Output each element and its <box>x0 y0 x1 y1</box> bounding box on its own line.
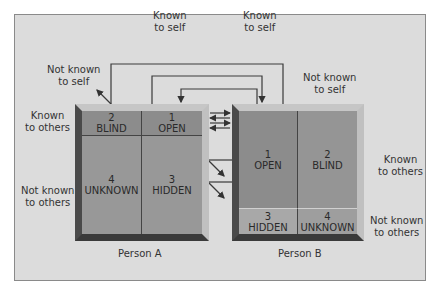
person-a-hidden-cell: 3 HIDDEN <box>142 136 202 234</box>
label-known-to-others-left: Known to others <box>25 110 70 134</box>
inner-connector <box>181 89 257 104</box>
person-a-window: 2 BLIND 1 OPEN 4 UNKNOWN 3 HIDDEN <box>75 104 209 241</box>
person-b-open-cell: 1 OPEN <box>239 111 298 208</box>
cell-label: BLIND <box>96 123 127 134</box>
label-not-known-to-self-right: Not known to self <box>303 72 356 96</box>
cell-number: 2 <box>324 149 330 160</box>
person-b-caption: Person B <box>278 248 322 260</box>
cell-number: 4 <box>108 174 114 185</box>
cell-label: OPEN <box>158 123 186 134</box>
connector-lines <box>0 0 437 292</box>
label-not-known-to-others-left: Not known to others <box>21 185 74 209</box>
person-a-blind-cell: 2 BLIND <box>82 111 142 136</box>
label-not-known-to-others-right: Not known to others <box>370 215 423 239</box>
cell-label: BLIND <box>312 160 343 171</box>
cell-number: 1 <box>169 112 175 123</box>
label-known-to-self-left: Known to self <box>153 10 187 34</box>
label-known-to-others-right: Known to others <box>378 154 423 178</box>
person-b-blind-cell: 2 BLIND <box>298 111 357 208</box>
label-known-to-self-right: Known to self <box>243 10 277 34</box>
person-a-unknown-cell: 4 UNKNOWN <box>82 136 142 234</box>
person-b-window: 1 OPEN 2 BLIND 3 HIDDEN 4 UNKNOWN <box>232 104 364 241</box>
cell-number: 3 <box>169 174 175 185</box>
cell-label: UNKNOWN <box>300 222 354 233</box>
cell-number: 4 <box>324 211 330 222</box>
label-not-known-to-self-left: Not known to self <box>47 64 100 88</box>
cell-number: 1 <box>265 149 271 160</box>
cell-number: 3 <box>265 211 271 222</box>
cell-label: UNKNOWN <box>84 185 138 196</box>
person-a-caption: Person A <box>118 248 162 260</box>
cell-label: HIDDEN <box>152 185 192 196</box>
not-known-arrow <box>97 90 111 104</box>
cell-label: OPEN <box>254 160 282 171</box>
cell-label: HIDDEN <box>248 222 288 233</box>
middle-connector <box>152 76 262 104</box>
cell-number: 2 <box>108 112 114 123</box>
person-a-open-cell: 1 OPEN <box>142 111 202 136</box>
person-b-hidden-cell: 3 HIDDEN <box>239 208 298 234</box>
person-b-unknown-cell: 4 UNKNOWN <box>298 208 357 234</box>
